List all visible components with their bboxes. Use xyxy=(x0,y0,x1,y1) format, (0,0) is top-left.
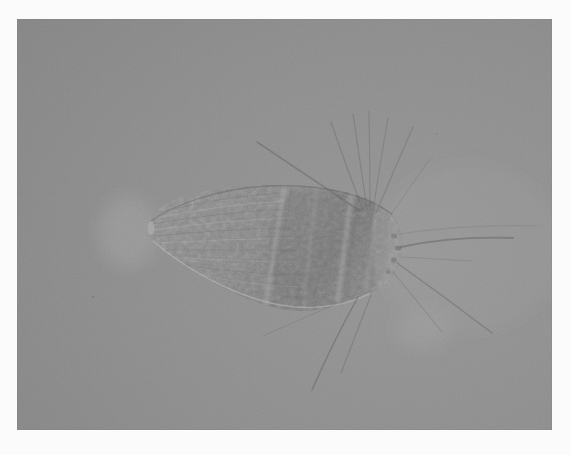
micrograph-svg xyxy=(0,0,571,455)
scanned-page xyxy=(0,0,571,455)
micrograph-figure xyxy=(0,0,571,455)
film-grain-overlay xyxy=(17,19,552,430)
